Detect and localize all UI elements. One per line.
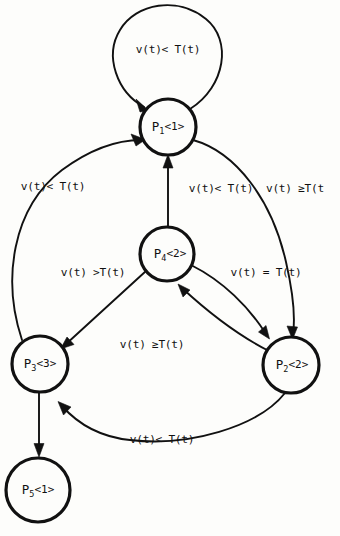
edge-p2-to-p3-path xyxy=(62,393,285,441)
node-p4[interactable] xyxy=(140,227,194,281)
edge-p2-to-p3 xyxy=(58,393,285,441)
node-p3[interactable] xyxy=(12,336,68,392)
edge-p2-to-p4-path xyxy=(182,288,267,350)
edge-p4-to-p3-path xyxy=(65,271,146,345)
node-p2[interactable] xyxy=(263,337,319,393)
edge-p3-to-p1 xyxy=(12,134,145,340)
edge-p1-to-p2 xyxy=(193,140,298,340)
edge-p4-to-p2-arrowhead xyxy=(259,326,270,340)
state-diagram: P1<1> P4<2> P3<3> P2<2> P5<1> v(t)< T(t)… xyxy=(0,0,340,536)
node-p1[interactable] xyxy=(140,99,196,155)
edge-p2-to-p4-arrowhead xyxy=(178,284,190,297)
node-p5[interactable] xyxy=(6,458,70,522)
edge-self-loop-p1 xyxy=(113,5,222,112)
edge-p4-to-p2-path xyxy=(191,265,266,334)
edge-p3-to-p5-arrowhead xyxy=(34,444,44,458)
edge-p4-to-p3 xyxy=(61,271,147,349)
diagram-canvas xyxy=(0,0,340,536)
edge-p3-to-p1-path xyxy=(12,140,141,340)
edge-p4-to-p1 xyxy=(163,155,173,228)
edge-self-loop-p1-path xyxy=(113,5,222,109)
edge-p3-to-p5 xyxy=(34,392,44,457)
